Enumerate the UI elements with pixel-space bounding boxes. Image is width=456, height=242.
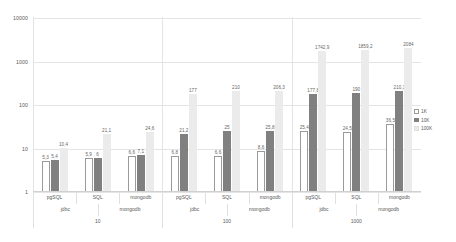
bar[interactable] <box>51 160 59 192</box>
bar-group: 8,625,8206,3 <box>249 18 292 192</box>
tier-divider <box>119 192 120 204</box>
bar[interactable] <box>42 161 50 193</box>
bar[interactable] <box>232 91 240 192</box>
axis-label-size: 100 <box>162 216 291 228</box>
bar-column[interactable]: 2084 <box>404 18 412 192</box>
axis-label-driver: jdbc <box>292 204 357 216</box>
axis-tier-size: 101001000 <box>33 216 421 228</box>
legend-swatch-1k-icon <box>414 109 419 114</box>
bar-column[interactable]: 6 <box>94 18 102 192</box>
bar-column[interactable]: 5,9 <box>85 18 93 192</box>
axis-label-driver-text: jdbc <box>190 206 199 212</box>
legend-swatch-100k-icon <box>414 126 419 131</box>
axis-label-database: SQL <box>76 192 119 204</box>
bar-value-label: 10,4 <box>59 142 68 147</box>
axis-label-driver: jdbc <box>33 204 98 216</box>
bar-column[interactable]: 5,3 <box>42 18 50 192</box>
bar-column[interactable]: 8,6 <box>257 18 265 192</box>
axis-label-driver: mongodb <box>98 204 163 216</box>
axis-label-driver-text: jdbc <box>61 206 70 212</box>
axis-label-size: 1000 <box>292 216 421 228</box>
bar-column[interactable]: 1859,2 <box>361 18 369 192</box>
bar-column[interactable]: 25 <box>223 18 231 192</box>
bar[interactable] <box>103 134 111 192</box>
legend-label-100k: 100K <box>421 126 432 131</box>
bar-value-label: 206,3 <box>273 85 285 90</box>
bar[interactable] <box>257 151 265 192</box>
bar-column[interactable]: 21,2 <box>180 18 188 192</box>
bar-column[interactable]: 6,6 <box>214 18 222 192</box>
bar-column[interactable]: 36,5 <box>386 18 394 192</box>
bar-column[interactable]: 5,4 <box>51 18 59 192</box>
bar-group: 24,51901859,2 <box>335 18 378 192</box>
bar[interactable] <box>180 134 188 192</box>
bar-groups: 5,35,410,45,9621,16,67,124,66,821,21776,… <box>33 18 421 192</box>
bar-column[interactable]: 24,6 <box>146 18 154 192</box>
bar[interactable] <box>128 156 136 192</box>
bar-column[interactable]: 24,5 <box>343 18 351 192</box>
bar[interactable] <box>171 156 179 192</box>
axis-label-size: 10 <box>33 216 162 228</box>
bar-column[interactable]: 25,8 <box>266 18 274 192</box>
bar-column[interactable]: 7,1 <box>137 18 145 192</box>
bar[interactable] <box>318 51 326 192</box>
legend-item-10k[interactable]: 10K <box>414 118 432 123</box>
bar-column[interactable]: 210 <box>232 18 240 192</box>
bar-group: 6,821,2177 <box>162 18 205 192</box>
bar-column[interactable]: 10,4 <box>60 18 68 192</box>
axis-label-database-text: pgSQL <box>47 194 63 200</box>
bar[interactable] <box>85 158 93 192</box>
bar-column[interactable]: 206,3 <box>275 18 283 192</box>
y-axis-tick-label: 100 <box>19 102 28 108</box>
tier-divider <box>292 216 293 228</box>
bar[interactable] <box>361 50 369 192</box>
bar[interactable] <box>386 124 394 192</box>
tier-divider <box>205 192 206 204</box>
bar-value-label: 1859,2 <box>358 44 372 49</box>
tier-divider <box>335 192 336 204</box>
bar[interactable] <box>352 93 360 192</box>
bar-value-label: 7,1 <box>137 149 144 154</box>
bar-column[interactable]: 177 <box>189 18 197 192</box>
bar[interactable] <box>266 131 274 192</box>
bar[interactable] <box>404 48 412 192</box>
bar[interactable] <box>275 91 283 192</box>
legend-item-100k[interactable]: 100K <box>414 126 432 131</box>
y-axis-tick-label: 10000 <box>13 15 28 21</box>
bar[interactable] <box>395 91 403 192</box>
legend-item-1k[interactable]: 1K <box>414 109 432 114</box>
bar-column[interactable]: 6,8 <box>171 18 179 192</box>
axis-label-database-text: mongodb <box>260 194 281 200</box>
bar[interactable] <box>223 131 231 192</box>
bar-value-label: 5,9 <box>85 152 92 157</box>
tier-divider <box>33 192 34 204</box>
bar-group: 6,67,124,6 <box>119 18 162 192</box>
tier-divider <box>378 192 379 204</box>
bar-value-label: 24,6 <box>145 126 154 131</box>
bar-group: 6,625210 <box>205 18 248 192</box>
bar-column[interactable]: 25,4 <box>300 18 308 192</box>
bar[interactable] <box>300 131 308 192</box>
bar[interactable] <box>309 94 317 192</box>
bar-value-label: 21,2 <box>179 128 188 133</box>
bar[interactable] <box>94 158 102 192</box>
bar[interactable] <box>137 155 145 192</box>
tier-divider <box>76 192 77 204</box>
bar-value-label: 25,8 <box>266 125 275 130</box>
bar-column[interactable]: 1742,9 <box>318 18 326 192</box>
bar[interactable] <box>60 148 68 192</box>
bar-group: 5,35,410,4 <box>33 18 76 192</box>
category-axis: pgSQLSQLmongodbpgSQLSQLmongodbpgSQLSQLmo… <box>33 192 421 228</box>
axis-label-size-text: 100 <box>223 218 231 224</box>
bar-column[interactable]: 6,6 <box>128 18 136 192</box>
bar[interactable] <box>214 156 222 192</box>
bar[interactable] <box>146 132 154 193</box>
bar[interactable] <box>189 94 197 192</box>
bar[interactable] <box>343 132 351 192</box>
bar-column[interactable]: 21,1 <box>103 18 111 192</box>
bar-value-label: 6 <box>96 152 99 157</box>
tier-divider <box>356 204 357 216</box>
bar-value-label: 6,8 <box>172 150 179 155</box>
bar-value-label: 24,5 <box>343 126 352 131</box>
bar-value-label: 6,6 <box>215 150 222 155</box>
